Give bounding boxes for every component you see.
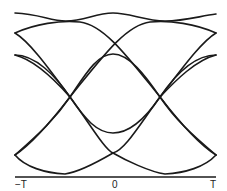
trace-lower-left: [15, 97, 70, 155]
tick-label-neg-t: −T: [15, 179, 27, 190]
eye-diagram: [0, 0, 227, 191]
trace-upper-left-arc: [15, 21, 216, 155]
trace-lower-right: [160, 97, 216, 155]
trace-left-inner: [15, 55, 216, 133]
tick-label-t: T: [210, 179, 216, 190]
trace-top: [15, 13, 216, 21]
tick-label-zero: 0: [112, 179, 118, 190]
trace-upper-right-arc: [15, 21, 216, 155]
trace-inner-upper: [70, 54, 160, 97]
